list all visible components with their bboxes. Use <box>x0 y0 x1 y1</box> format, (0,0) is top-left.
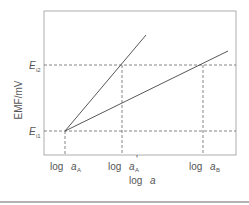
reference-lines <box>44 65 236 155</box>
emf-diagram: EMF/mV E i2 E i1 log a A log a A ' log a… <box>0 0 249 205</box>
x-tick-aB-sub: B <box>216 167 220 173</box>
x-axis-label-var: a <box>150 175 156 186</box>
x-axis-label-log: log <box>129 175 142 186</box>
y-tick-ei1: E <box>29 126 36 137</box>
x-tick-aA2-log: log <box>108 161 121 172</box>
y-tick-ei2-sub: i2 <box>36 67 41 73</box>
x-tick-aB-log: log <box>189 161 202 172</box>
x-tick-aA2-prime: ' <box>136 154 138 165</box>
y-tick-ei2: E <box>29 60 36 71</box>
plot-frame <box>44 11 236 155</box>
steep-line <box>65 35 146 131</box>
y-tick-ei1-sub: i1 <box>36 133 41 139</box>
shallow-line <box>65 51 228 131</box>
x-tick-aA-sub: A <box>77 167 81 173</box>
y-axis-label: EMF/mV <box>13 80 24 119</box>
x-tick-aA-log: log <box>50 161 63 172</box>
x-tick-aA2-sub: A <box>135 167 139 173</box>
